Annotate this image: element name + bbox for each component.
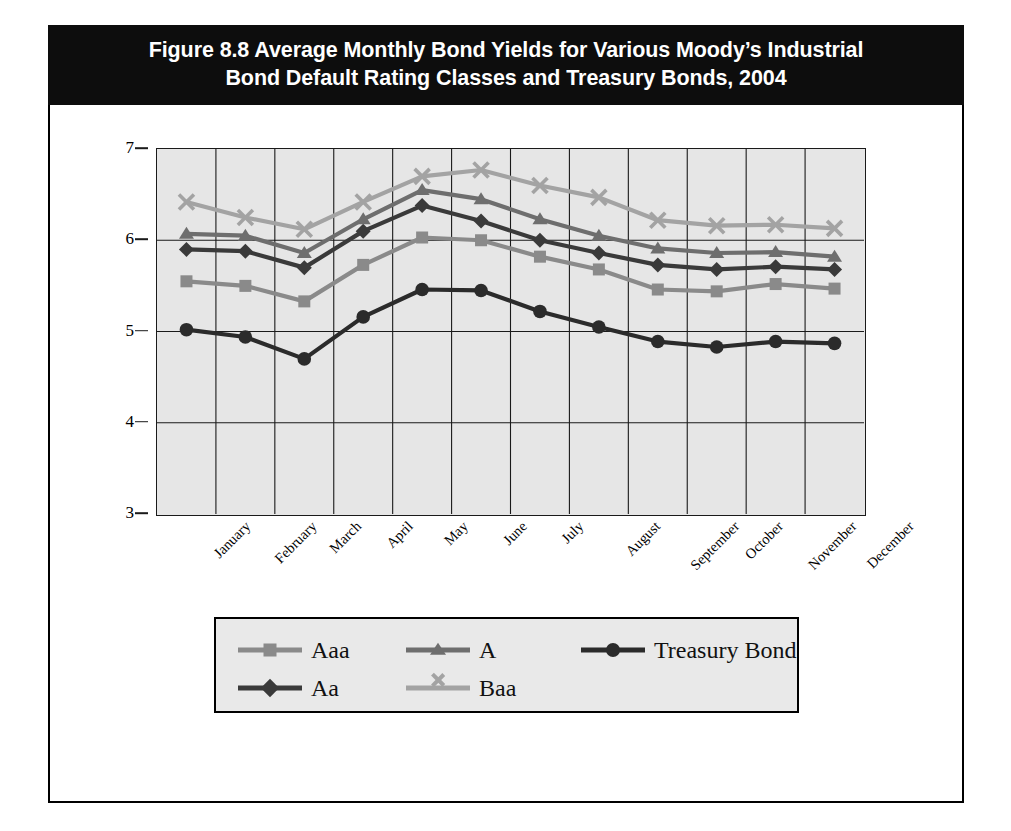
data-point-marker <box>298 295 310 307</box>
data-point-marker <box>415 283 429 297</box>
data-point-marker <box>592 320 606 334</box>
y-tick-mark <box>135 512 148 514</box>
x-tick-label: March <box>326 518 365 557</box>
y-tick-label: 7 <box>126 138 135 158</box>
x-tick-label: November <box>805 518 860 573</box>
data-point-marker <box>180 275 192 287</box>
data-point-marker <box>710 340 724 354</box>
data-point-marker <box>709 262 724 277</box>
data-point-marker <box>474 214 489 229</box>
legend-label-aa: Aa <box>311 675 339 702</box>
data-point-marker <box>591 246 606 261</box>
data-point-marker <box>828 337 842 351</box>
y-tick-mark <box>135 421 148 423</box>
data-point-marker <box>533 305 547 319</box>
data-point-marker <box>770 278 782 290</box>
x-tick-label: February <box>272 518 321 567</box>
legend-item-aaa[interactable]: Aaa <box>238 637 406 664</box>
figure-title-line-2: Bond Default Rating Classes and Treasury… <box>225 66 786 90</box>
data-point-marker <box>652 284 664 296</box>
page-title: Figure 8.8 Average Monthly Bond Yields f… <box>149 36 864 93</box>
y-tick-mark <box>135 238 148 240</box>
data-point-marker <box>769 335 783 349</box>
y-tick-label: 4 <box>126 412 135 432</box>
x-tick-label: May <box>441 518 472 549</box>
legend-row-2: Aa Baa <box>238 669 797 707</box>
x-tick-label: April <box>383 518 417 552</box>
data-point-marker <box>829 283 841 295</box>
triangle-marker <box>406 648 470 653</box>
chart-area: 34567 JanuaryFebruaryMarchAprilMayJuneJu… <box>48 105 964 803</box>
data-point-marker <box>416 232 428 244</box>
data-point-marker <box>179 242 194 257</box>
data-point-marker <box>534 251 546 263</box>
data-point-marker <box>238 244 253 259</box>
x-marker <box>406 686 470 691</box>
x-axis: JanuaryFebruaryMarchAprilMayJuneJulyAugu… <box>156 518 866 628</box>
legend-label-treasury-bond: Treasury Bond <box>654 637 796 664</box>
circle-marker <box>581 648 645 653</box>
legend-item-baa[interactable]: Baa <box>406 675 581 702</box>
y-tick-label: 5 <box>126 321 135 341</box>
data-point-marker <box>297 352 311 366</box>
data-point-marker <box>593 263 605 275</box>
x-tick-label: July <box>558 518 587 547</box>
x-tick-label: October <box>741 518 786 563</box>
legend-item-treasury-bond[interactable]: Treasury Bond <box>581 637 796 664</box>
legend-label-a: A <box>479 637 496 664</box>
chart-svg <box>157 149 864 514</box>
legend-row-1: Aaa A Treasury Bond <box>238 631 797 669</box>
data-point-marker <box>650 257 665 272</box>
data-point-marker <box>475 234 487 246</box>
data-point-marker <box>651 335 665 349</box>
y-tick-label: 3 <box>126 503 135 523</box>
data-point-marker <box>180 323 194 337</box>
x-tick-label: December <box>863 518 917 572</box>
data-point-marker <box>356 310 370 324</box>
x-tick-label: September <box>687 518 743 574</box>
legend-item-a[interactable]: A <box>406 637 581 664</box>
plot-region <box>156 148 866 516</box>
data-point-marker <box>711 285 723 297</box>
square-marker <box>238 648 302 653</box>
data-point-marker <box>239 330 253 344</box>
figure-title-line-1: Figure 8.8 Average Monthly Bond Yields f… <box>149 38 864 62</box>
x-tick-label: June <box>500 518 531 549</box>
legend-label-baa: Baa <box>479 675 516 702</box>
data-point-marker <box>239 280 251 292</box>
legend-item-aa[interactable]: Aa <box>238 675 406 702</box>
diamond-marker <box>238 686 302 691</box>
y-tick-mark <box>135 147 148 149</box>
data-point-marker <box>827 262 842 277</box>
figure-title-band: Figure 8.8 Average Monthly Bond Yields f… <box>48 25 964 105</box>
y-tick-mark <box>135 330 148 332</box>
data-point-marker <box>768 259 783 274</box>
y-tick-label: 6 <box>126 229 135 249</box>
data-point-marker <box>415 198 430 213</box>
data-point-marker <box>357 259 369 271</box>
chart-legend: Aaa A Treasury Bond Aa Baa <box>214 617 799 713</box>
x-tick-label: January <box>211 518 255 562</box>
data-point-marker <box>532 233 547 248</box>
y-axis: 34567 <box>48 105 156 565</box>
legend-label-aaa: Aaa <box>311 637 350 664</box>
x-tick-label: August <box>622 518 664 560</box>
data-point-marker <box>474 284 488 298</box>
